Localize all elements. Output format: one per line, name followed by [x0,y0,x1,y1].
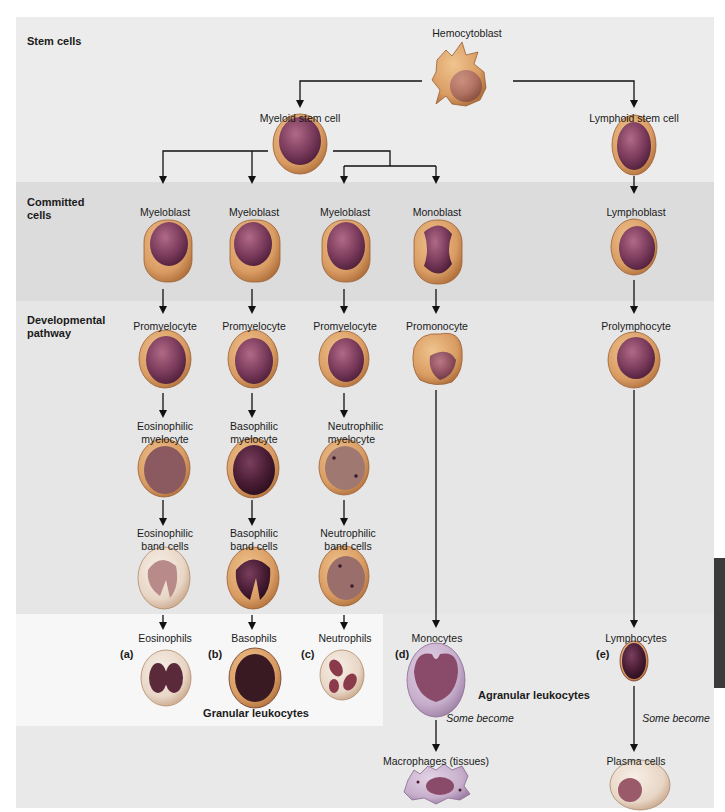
label-basophilic-myelocyte: Basophilic myelocyte [230,420,278,446]
label-myeloblast-3: Myeloblast [320,206,370,219]
hemocytoblast-cell [432,42,486,106]
label-prolymphocyte: Prolymphocyte [601,320,670,333]
label-promonocyte: Promonocyte [406,320,468,333]
label-line: band cells [230,540,278,553]
label-basophils: Basophils [231,632,277,645]
label-basophilic-band-cells: Basophilic band cells [230,527,278,553]
label-lymphoid-stem-cell: Lymphoid stem cell [589,112,678,125]
label-some-become-plasma: Some become [642,712,710,725]
label-eosinophilic-myelocyte: Eosinophilic myelocyte [137,420,193,446]
label-line: myelocyte [328,433,383,446]
label-monocytes: Monocytes [412,632,463,645]
letter-e: (e) [596,648,609,660]
label-line: band cells [137,540,193,553]
label-granular-leukocytes: Granular leukocytes [203,707,309,720]
label-line: Eosinophilic [137,420,193,433]
label-myeloblast-2: Myeloblast [229,206,279,219]
label-macrophages: Macrophages (tissues) [383,755,489,768]
label-line: Basophilic [230,527,278,540]
label-neutrophils: Neutrophils [318,632,371,645]
label-promyelocyte-1: Promyelocyte [133,320,197,333]
letter-b: (b) [208,648,222,660]
label-line: myelocyte [230,433,278,446]
label-promyelocyte-3: Promyelocyte [313,320,377,333]
label-lymphocytes: Lymphocytes [605,632,666,645]
label-agranular-leukocytes: Agranular leukocytes [478,689,590,702]
label-neutrophilic-myelocyte: Neutrophilic myelocyte [328,420,383,446]
label-plasma-cells: Plasma cells [607,755,666,768]
label-line: Basophilic [230,420,278,433]
label-neutrophilic-band-cells: Neutrophilic band cells [320,527,375,553]
label-hemocytoblast: Hemocytoblast [432,27,501,40]
label-line: myelocyte [137,433,193,446]
label-line: Neutrophilic [328,420,383,433]
label-line: Eosinophilic [137,527,193,540]
label-monoblast: Monoblast [413,206,461,219]
letter-a: (a) [120,648,133,660]
letter-d: (d) [395,648,409,660]
label-line: band cells [320,540,375,553]
label-myeloblast-1: Myeloblast [140,206,190,219]
label-eosinophilic-band-cells: Eosinophilic band cells [137,527,193,553]
label-eosinophils: Eosinophils [138,632,192,645]
label-lymphoblast: Lymphoblast [606,206,665,219]
label-some-become-macrophage: Some become [446,712,514,725]
label-line: Neutrophilic [320,527,375,540]
label-promyelocyte-2: Promyelocyte [222,320,286,333]
label-myeloid-stem-cell: Myeloid stem cell [260,112,341,125]
letter-c: (c) [301,648,314,660]
